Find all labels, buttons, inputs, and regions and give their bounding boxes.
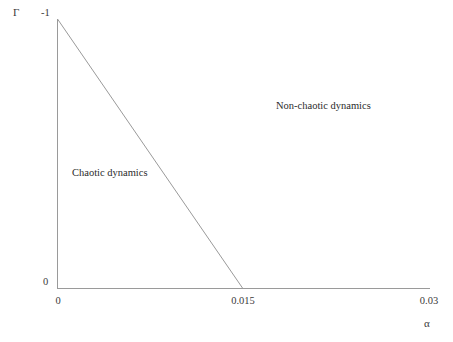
y-tick-label-minus-1: -1	[41, 8, 50, 19]
annotation-non-chaotic-dynamics: Non-chaotic dynamics	[276, 101, 371, 112]
x-tick-label-0.03: 0.03	[420, 296, 438, 307]
x-tick-label-0.015: 0.015	[231, 296, 255, 307]
annotation-chaotic-dynamics: Chaotic dynamics	[72, 168, 148, 179]
plot-canvas	[0, 0, 453, 342]
x-tick-label-0: 0	[55, 296, 60, 307]
x-axis-label: α	[424, 318, 430, 329]
phase-diagram-figure: Γ α -1 0 0 0.015 0.03 Chaotic dynamics N…	[0, 0, 453, 342]
y-tick-label-0: 0	[43, 277, 48, 288]
stability-boundary-line	[58, 19, 243, 288]
y-axis-label: Γ	[13, 7, 19, 18]
